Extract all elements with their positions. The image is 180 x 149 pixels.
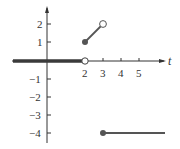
y-tick-label: −4 <box>29 127 41 139</box>
x-tick-label: 2 <box>82 67 88 79</box>
y-tick-label: −2 <box>29 91 41 103</box>
piecewise-function-plot: 2 3 4 5 t 2 1 −1 −2 −3 −4 <box>0 0 180 149</box>
closed-endpoint-icon <box>100 130 106 136</box>
open-endpoint-icon <box>82 58 88 64</box>
x-axis-arrow-icon <box>159 59 166 63</box>
y-ticks <box>47 24 51 133</box>
closed-endpoint-icon <box>82 39 88 45</box>
x-tick-label: 3 <box>100 67 106 79</box>
x-tick-label: 4 <box>118 67 124 79</box>
y-tick-label: 1 <box>37 36 43 48</box>
open-endpoint-icon <box>100 21 107 28</box>
y-tick-label: −3 <box>29 109 41 121</box>
y-tick-label: −1 <box>29 73 41 85</box>
x-tick-label: 5 <box>136 67 142 79</box>
y-axis-arrow-icon <box>45 6 49 13</box>
x-axis-label: t <box>168 54 172 68</box>
y-tick-label: 2 <box>37 18 43 30</box>
